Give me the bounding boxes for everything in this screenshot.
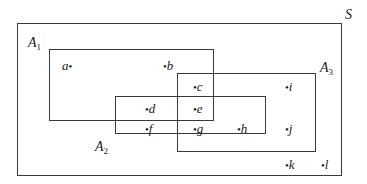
point-d: •d	[145, 102, 155, 115]
universe-label-s: S	[345, 8, 352, 22]
venn-diagram: S A1 A2 A3 a• •b •c •d •e •f •g •h •i •j…	[0, 0, 367, 184]
point-j: •j	[285, 122, 292, 135]
point-dot: •	[69, 60, 73, 72]
point-f: •f	[145, 122, 152, 135]
point-c: •c	[193, 80, 203, 93]
point-e: •e	[193, 102, 203, 115]
set-label-a2: A2	[95, 140, 108, 156]
point-h: •h	[237, 122, 247, 135]
set-label-a3: A3	[320, 61, 333, 77]
point-a: a•	[62, 59, 72, 72]
point-i: •i	[285, 80, 292, 93]
point-l: •l	[321, 158, 328, 171]
point-g: •g	[193, 122, 203, 135]
point-k: •k	[285, 158, 295, 171]
point-b: •b	[163, 59, 173, 72]
set-label-a1: A1	[28, 36, 41, 52]
